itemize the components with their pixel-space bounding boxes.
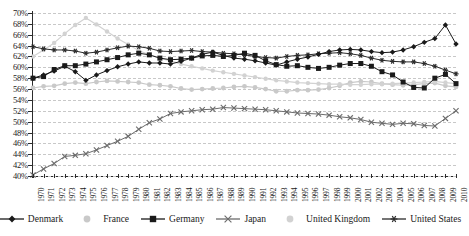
data-point bbox=[359, 83, 363, 87]
data-point bbox=[136, 80, 141, 85]
data-point bbox=[443, 80, 447, 84]
data-point bbox=[263, 77, 267, 81]
x-tick-mark bbox=[118, 174, 119, 178]
data-point bbox=[41, 166, 46, 171]
data-point bbox=[136, 51, 141, 56]
y-axis-labels: 70%68%66%64%62%60%58%56%54%52%50%48%46%4… bbox=[0, 0, 31, 176]
data-point bbox=[443, 68, 448, 73]
x-tick-mark bbox=[65, 174, 66, 178]
legend-label: United States bbox=[410, 214, 461, 224]
x-tick-label: 1977 bbox=[111, 188, 120, 202]
x-tick-label: 1973 bbox=[68, 188, 77, 202]
x-tick-label: 1974 bbox=[79, 188, 88, 202]
data-point bbox=[390, 72, 395, 77]
data-point bbox=[105, 79, 110, 84]
legend-item-japan[interactable]: Japan bbox=[215, 213, 266, 225]
data-point bbox=[8, 216, 15, 223]
cross-marker-icon bbox=[215, 213, 241, 225]
data-point bbox=[232, 84, 237, 89]
data-point bbox=[443, 72, 448, 77]
y-tick-mark bbox=[28, 67, 32, 68]
y-tick-label: 60% bbox=[13, 62, 28, 72]
x-tick-mark bbox=[276, 174, 277, 178]
x-tick-label: 2007 bbox=[428, 188, 437, 202]
x-tick-mark bbox=[308, 174, 309, 178]
data-point bbox=[390, 81, 394, 85]
x-tick-label: 1981 bbox=[153, 188, 162, 202]
x-tick-mark bbox=[202, 174, 203, 178]
x-tick-label: 1990 bbox=[248, 188, 257, 202]
legend-item-germany[interactable]: Germany bbox=[140, 213, 204, 225]
data-point bbox=[411, 85, 416, 90]
data-point bbox=[104, 68, 109, 73]
y-tick-mark bbox=[28, 122, 32, 123]
data-point bbox=[147, 52, 152, 57]
data-point bbox=[115, 79, 120, 84]
y-tick-label: 70% bbox=[13, 8, 28, 18]
legend-item-france[interactable]: France bbox=[74, 213, 129, 225]
x-tick-label: 1971 bbox=[47, 188, 56, 202]
x-tick-label: 2008 bbox=[438, 188, 447, 202]
y-tick-label: 68% bbox=[13, 19, 28, 29]
x-tick-mark bbox=[414, 174, 415, 178]
y-tick-mark bbox=[28, 176, 32, 177]
data-point bbox=[369, 64, 374, 69]
x-tick-mark bbox=[361, 174, 362, 178]
legend-item-united-states[interactable]: United States bbox=[381, 213, 461, 225]
x-tick-label: 2010 bbox=[460, 188, 469, 202]
data-point bbox=[52, 161, 57, 166]
data-point bbox=[369, 82, 373, 86]
x-axis-labels: 1970197119721973197419751976197719781979… bbox=[33, 178, 456, 204]
series-japan bbox=[30, 105, 458, 178]
legend-item-united-kingdom[interactable]: United Kingdom bbox=[277, 213, 370, 225]
data-point bbox=[115, 55, 120, 60]
x-tick-label: 2000 bbox=[354, 188, 363, 202]
y-tick-mark bbox=[28, 56, 32, 57]
data-point bbox=[94, 50, 99, 55]
data-point bbox=[358, 47, 363, 52]
data-point bbox=[157, 56, 162, 61]
x-tick-mark bbox=[96, 174, 97, 178]
x-tick-label: 2005 bbox=[407, 188, 416, 202]
data-point bbox=[390, 59, 395, 64]
x-tick-label: 1986 bbox=[206, 188, 215, 202]
y-tick-label: 62% bbox=[13, 51, 28, 61]
x-tick-mark bbox=[33, 174, 34, 178]
data-point bbox=[284, 54, 289, 59]
data-point bbox=[454, 81, 459, 86]
data-point bbox=[52, 48, 57, 53]
data-point bbox=[295, 56, 300, 61]
y-tick-label: 48% bbox=[13, 128, 28, 138]
y-tick-label: 52% bbox=[13, 106, 28, 116]
y-tick-mark bbox=[28, 165, 32, 166]
data-point bbox=[348, 51, 353, 56]
data-point bbox=[157, 49, 162, 54]
data-point bbox=[432, 76, 437, 81]
x-tick-label: 1982 bbox=[163, 188, 172, 202]
x-tick-mark bbox=[403, 174, 404, 178]
data-point bbox=[380, 82, 384, 86]
legend-label: United Kingdom bbox=[306, 214, 370, 224]
data-point bbox=[379, 50, 384, 55]
data-point bbox=[327, 82, 331, 86]
data-point bbox=[62, 81, 67, 86]
data-point bbox=[242, 84, 247, 89]
y-tick-mark bbox=[28, 78, 32, 79]
x-tick-mark bbox=[86, 174, 87, 178]
y-tick-mark bbox=[28, 35, 32, 36]
data-point bbox=[401, 60, 406, 65]
y-tick-label: 40% bbox=[13, 171, 28, 181]
data-point bbox=[391, 216, 398, 222]
data-point bbox=[126, 80, 131, 85]
y-tick-mark bbox=[28, 46, 32, 47]
data-point bbox=[358, 61, 363, 66]
x-tick-label: 1978 bbox=[121, 188, 130, 202]
legend-label: France bbox=[103, 214, 129, 224]
x-tick-label: 1991 bbox=[259, 188, 268, 202]
x-tick-label: 2001 bbox=[364, 188, 373, 202]
circle-marker-icon bbox=[74, 213, 100, 225]
data-point bbox=[422, 85, 427, 90]
x-tick-label: 2004 bbox=[396, 188, 405, 202]
legend-item-denmark[interactable]: Denmark bbox=[0, 213, 63, 225]
data-point bbox=[126, 134, 131, 139]
